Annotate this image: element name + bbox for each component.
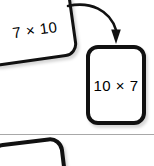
flashcard-commutative-property-figure: 7 × 10 10 × 7 [0, 0, 154, 166]
curved-arrow-icon [62, 0, 128, 48]
flashcard-next[interactable] [0, 136, 69, 166]
flashcard-target-label: 10 × 7 [93, 77, 138, 94]
flashcard-target[interactable]: 10 × 7 [86, 45, 146, 125]
section-divider [0, 134, 154, 135]
flashcard-source-label: 7 × 10 [11, 18, 58, 41]
